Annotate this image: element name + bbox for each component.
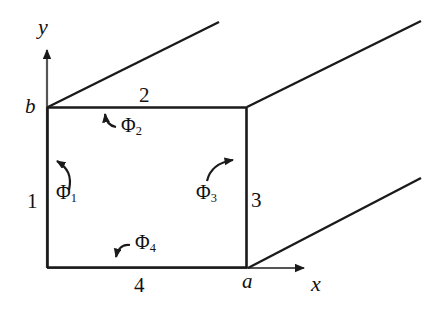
flux-arrow-phi-2 [105, 114, 116, 127]
wall-label-4: 4 [134, 275, 145, 296]
diagram-graphics [0, 0, 444, 309]
flux-label-phi-1: Φ1 [56, 182, 77, 205]
perspective-lines-group [48, 21, 421, 268]
perspective-top-left-line [48, 22, 219, 107]
figure-canvas: y x b a 1 2 3 4 Φ1 Φ2 Φ3 Φ4 [0, 0, 444, 309]
flux-label-phi-3: Φ3 [196, 182, 217, 205]
perspective-bottom-right-line [248, 178, 421, 268]
flux-symbol-phi-2: Φ [121, 114, 136, 136]
flux-symbol-phi-4: Φ [135, 231, 150, 253]
flux-subscript-phi-1: 1 [71, 191, 77, 205]
y-axis-label: y [38, 16, 48, 38]
flux-label-phi-4: Φ4 [135, 232, 156, 255]
flux-subscript-phi-2: 2 [136, 124, 142, 138]
flux-symbol-phi-3: Φ [196, 181, 211, 203]
axes-group [47, 50, 304, 268]
point-b-label: b [25, 96, 36, 117]
flux-subscript-phi-4: 4 [150, 241, 156, 255]
flux-arrow-phi-3 [207, 160, 233, 181]
point-a-label: a [242, 271, 253, 292]
flux-subscript-phi-3: 3 [211, 191, 217, 205]
flux-label-phi-2: Φ2 [121, 115, 142, 138]
wall-label-3: 3 [251, 190, 262, 211]
wall-label-1: 1 [27, 191, 38, 212]
flux-symbol-phi-1: Φ [56, 181, 71, 203]
perspective-top-right-line [247, 21, 421, 107]
x-axis-label: x [311, 273, 321, 295]
wall-label-2: 2 [139, 85, 150, 106]
flux-arrow-phi-4 [116, 245, 130, 257]
